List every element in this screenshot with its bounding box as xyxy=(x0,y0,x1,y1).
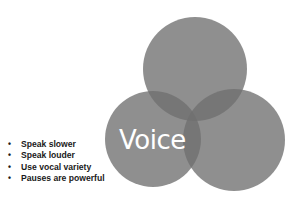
bullet-item: •Speak slower xyxy=(8,139,105,150)
bullet-list: •Speak slower •Speak louder •Use vocal v… xyxy=(8,139,105,185)
bullet-text: Speak slower xyxy=(21,139,76,149)
bullet-marker: • xyxy=(8,173,11,184)
bullet-text: Use vocal variety xyxy=(21,162,91,172)
bullet-text: Pauses are powerful xyxy=(21,173,105,183)
bullet-item: •Pauses are powerful xyxy=(8,173,105,184)
bullet-marker: • xyxy=(8,162,11,173)
bullet-marker: • xyxy=(8,150,11,161)
bullet-item: •Use vocal variety xyxy=(8,162,105,173)
bullet-text: Speak louder xyxy=(21,150,75,160)
venn-circle-right xyxy=(183,89,285,191)
bullet-marker: • xyxy=(8,139,11,150)
venn-center-label: Voice xyxy=(119,125,186,155)
bullet-item: •Speak louder xyxy=(8,150,105,161)
